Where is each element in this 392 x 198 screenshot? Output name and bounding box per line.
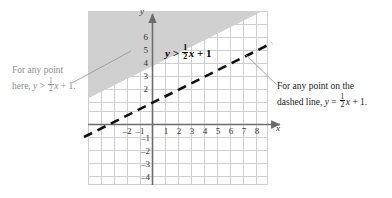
left-callout-fraction: 1 2 — [48, 77, 54, 93]
region-inequality-label: y > 1 2 x + 1 — [165, 44, 211, 61]
x-tick-label-4: 4 — [203, 126, 208, 136]
y-tick-label--2: –2 — [140, 146, 150, 156]
right-callout-dashed-line-text: dashed line, — [277, 97, 322, 107]
left-callout-here: here, — [12, 81, 31, 91]
right-callout-frac-denominator: 2 — [340, 100, 346, 109]
left-callout-variable-y: y — [33, 81, 37, 91]
x-tick-label-7: 7 — [242, 126, 247, 136]
left-callout-line-1: For any point — [12, 64, 76, 77]
y-tick-label--4: –4 — [140, 172, 151, 182]
right-callout-leader-line — [246, 55, 277, 85]
y-tick-label-5: 5 — [144, 45, 149, 55]
x-tick-label-8: 8 — [255, 126, 260, 136]
right-callout-line-1: For any point on the — [277, 80, 367, 93]
right-callout-frac-numerator: 1 — [340, 93, 346, 101]
x-tick-label-3: 3 — [190, 126, 195, 136]
left-callout: For any point here, y > 1 2 x + 1. — [12, 64, 76, 93]
region-label-variable: x — [189, 47, 195, 59]
right-callout-variable-y: y — [325, 97, 329, 107]
y-tick-label-6: 6 — [144, 32, 149, 42]
right-callout-fraction: 1 2 — [340, 93, 346, 109]
right-callout-relation: = — [331, 97, 336, 107]
y-tick-label--1: –1 — [140, 133, 150, 143]
region-label-lhs: y — [165, 47, 170, 59]
y-axis-label: y — [140, 6, 144, 16]
left-callout-frac-denominator: 2 — [48, 84, 54, 93]
region-label-relation: > — [173, 47, 179, 59]
graph-figure-page: –2 –1 1 2 3 4 5 6 7 8 6 5 4 3 2 –1 –2 –3… — [0, 0, 392, 198]
region-label-constant: 1 — [206, 47, 212, 59]
right-callout-tail: + 1. — [352, 97, 367, 107]
region-label-plus: + — [197, 47, 203, 59]
x-tick-label-1: 1 — [164, 126, 169, 136]
region-label-frac-denominator: 2 — [182, 52, 188, 61]
left-callout-tail: + 1. — [61, 81, 76, 91]
right-callout-variable-x: x — [346, 97, 350, 107]
y-tick-label-3: 3 — [144, 71, 149, 81]
right-callout-line-2: dashed line, y = 1 2 x + 1. — [277, 93, 367, 109]
region-label-fraction: 1 2 — [182, 44, 188, 61]
y-tick-label-4: 4 — [144, 58, 149, 68]
x-axis-label: x — [276, 123, 280, 133]
left-callout-line-2: here, y > 1 2 x + 1. — [12, 77, 76, 93]
left-callout-frac-numerator: 1 — [48, 77, 54, 85]
left-callout-variable-x: x — [54, 81, 58, 91]
x-tick-label-2: 2 — [177, 126, 182, 136]
x-tick-label-5: 5 — [216, 126, 221, 136]
region-label-frac-numerator: 1 — [182, 44, 188, 52]
left-callout-relation: > — [40, 81, 45, 91]
right-callout: For any point on the dashed line, y = 1 … — [277, 80, 367, 109]
y-tick-label--3: –3 — [140, 159, 151, 169]
y-tick-label-2: 2 — [144, 84, 149, 94]
x-tick-label--2: –2 — [122, 126, 132, 136]
x-tick-label-6: 6 — [229, 126, 234, 136]
